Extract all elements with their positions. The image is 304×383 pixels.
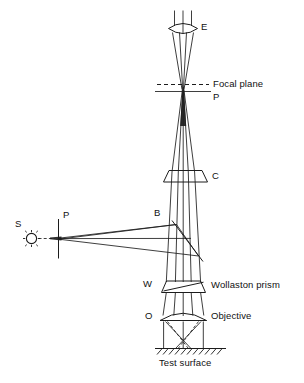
cropped-caption-fragment [4, 371, 154, 383]
mid-beam-right-edge [195, 172, 201, 282]
low-beam-inner-r [191, 293, 193, 316]
label-test-surface: Test surface [159, 358, 211, 368]
test-surface-group [155, 349, 226, 355]
label-compensator: C [212, 171, 219, 181]
label-objective-symbol: O [145, 311, 153, 321]
wollaston-internal-interface [164, 282, 204, 291]
label-eyepiece: E [201, 22, 207, 32]
eyepiece-lens-group [169, 11, 198, 34]
label-polarizer: P [63, 210, 69, 220]
surface-ray-dashed-right [179, 322, 199, 349]
label-source: S [15, 219, 21, 229]
eyepiece-to-focus-cone [173, 33, 194, 90]
label-beam-splitter: B [154, 208, 160, 218]
label-focal-plane: Focal plane [213, 79, 263, 89]
compensator-to-wollaston-beam [166, 172, 200, 282]
low-beam-left-edge [163, 293, 166, 316]
label-wollaston-name: Wollaston prism [211, 280, 280, 290]
label-objective-name: Objective [211, 311, 252, 321]
low-beam-inner-l [174, 293, 176, 316]
sun-ray-nw [25, 231, 27, 233]
mid-beam-left-edge [166, 172, 172, 282]
compensator-group [164, 171, 208, 183]
mid-beam-inner-r [188, 172, 191, 282]
cone-upper-inner-r [183, 33, 186, 90]
optical-diagram-figure: E Focal plane P C B S P W Wollaston pris… [0, 0, 304, 383]
illumination-arm-group [23, 219, 199, 259]
test-surface-hatching [157, 349, 222, 355]
sun-ray-ne [36, 231, 38, 233]
compensator-plate-icon [164, 171, 208, 183]
cone-upper-inner-l [180, 33, 183, 90]
label-focal-point-p: P [213, 92, 219, 102]
focus-to-compensator-beam [172, 87, 195, 172]
surface-ray-dashed-left [168, 322, 189, 349]
sun-ray-sw [25, 245, 27, 247]
source-sun-icon [23, 230, 40, 247]
wollaston-prism-group [162, 281, 206, 293]
illum-ray-lower [59, 239, 199, 256]
label-wollaston-symbol: W [143, 279, 152, 289]
illum-return-lower [59, 225, 177, 240]
wollaston-to-objective-beam [163, 293, 204, 317]
objective-to-surface-beams [164, 322, 204, 349]
cone-upper-left-edge [173, 33, 183, 90]
low-beam-right-edge [201, 293, 204, 316]
optical-diagram-canvas [0, 0, 304, 383]
sun-core-circle [26, 233, 36, 243]
cone-upper-right-edge [184, 33, 194, 90]
sun-ray-se [36, 245, 38, 247]
